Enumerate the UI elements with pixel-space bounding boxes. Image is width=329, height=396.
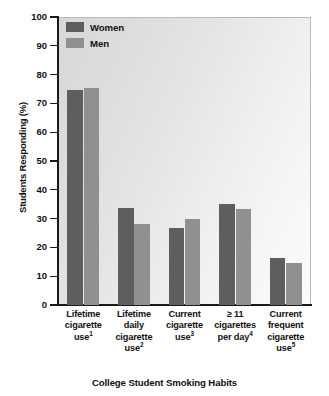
legend-item-men: Men bbox=[66, 36, 124, 50]
y-axis-tick bbox=[50, 132, 58, 133]
legend: Women Men bbox=[66, 20, 124, 52]
y-axis-tick-label: 10 bbox=[14, 271, 47, 281]
y-axis-tick-label: 20 bbox=[14, 242, 47, 252]
y-axis-tick bbox=[50, 304, 58, 305]
y-axis-tick bbox=[50, 247, 58, 248]
y-axis-tick bbox=[50, 45, 58, 46]
x-axis-title: College Student Smoking Habits bbox=[0, 377, 329, 388]
y-axis-tick bbox=[50, 16, 58, 17]
legend-item-women: Women bbox=[66, 20, 124, 34]
bar-men-4 bbox=[236, 209, 252, 305]
y-axis-tick bbox=[50, 74, 58, 75]
y-axis-tick-label: 60 bbox=[14, 127, 47, 137]
bar-men-5 bbox=[286, 263, 302, 305]
y-axis-tick-label: 40 bbox=[14, 185, 47, 195]
legend-swatch-women-icon bbox=[66, 22, 84, 32]
legend-label-women: Women bbox=[90, 22, 124, 33]
y-axis-tick bbox=[50, 189, 58, 190]
y-axis-tick-label: 80 bbox=[14, 70, 47, 80]
legend-swatch-men-icon bbox=[66, 38, 84, 48]
x-axis-category-4: ≥ 11cigarettesper day4 bbox=[207, 309, 264, 343]
bar-chart: Students Responding (%) 1009080706050403… bbox=[0, 0, 329, 396]
bar-women-2 bbox=[118, 208, 134, 305]
y-axis-tick bbox=[50, 276, 58, 277]
legend-label-men: Men bbox=[90, 38, 109, 49]
bar-men-3 bbox=[185, 219, 201, 305]
x-axis-category-5: Currentfrequentcigaretteuse5 bbox=[257, 309, 314, 355]
y-axis-tick bbox=[50, 103, 58, 104]
bar-men-1 bbox=[84, 88, 100, 305]
bar-women-5 bbox=[270, 258, 286, 305]
bar-women-4 bbox=[219, 204, 235, 305]
bar-women-3 bbox=[169, 228, 185, 305]
y-axis-tick bbox=[50, 218, 58, 219]
x-axis-category-3: Currentcigaretteuse3 bbox=[156, 309, 213, 343]
x-axis-category-1: Lifetimecigaretteuse1 bbox=[55, 309, 112, 343]
bar-women-1 bbox=[67, 90, 83, 305]
y-axis-tick-label: 50 bbox=[14, 156, 47, 166]
y-axis-tick-label: 100 bbox=[14, 12, 47, 22]
x-axis-category-2: Lifetimedailycigaretteuse2 bbox=[106, 309, 163, 355]
y-axis-tick-label: 0 bbox=[14, 300, 47, 310]
y-axis-tick-label: 90 bbox=[14, 41, 47, 51]
y-axis-tick-label: 70 bbox=[14, 98, 47, 108]
y-axis-tick-label: 30 bbox=[14, 214, 47, 224]
bar-men-2 bbox=[134, 224, 150, 305]
y-axis-tick bbox=[50, 160, 58, 161]
